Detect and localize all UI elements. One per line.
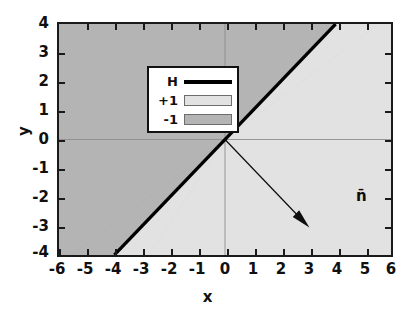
y-ticklabel-3: 3: [17, 43, 49, 61]
legend-swatch-negative: [184, 114, 232, 125]
legend: H +1 -1: [147, 66, 239, 133]
x-tick--1: [199, 249, 201, 255]
y-ticklabel--4: -4: [17, 243, 49, 261]
y-tick-1: [59, 111, 65, 113]
plot-svg: [59, 24, 391, 255]
x-tick-top-3: [311, 24, 313, 30]
y-tick-right-1: [385, 111, 391, 113]
x-tick-top--1: [199, 24, 201, 30]
x-axis-title: x: [0, 288, 415, 306]
x-tick--2: [171, 249, 173, 255]
x-tick--3: [143, 249, 145, 255]
y-ticklabel--1: -1: [17, 159, 49, 177]
legend-entry-negative: -1: [154, 110, 232, 129]
legend-swatch-positive: [184, 95, 232, 106]
x-tick--5: [87, 249, 89, 255]
legend-label-h: H: [154, 74, 178, 89]
y-tick--3: [59, 227, 65, 229]
x-tick-1: [255, 249, 257, 255]
x-tick-3: [311, 249, 313, 255]
y-tick-right--1: [385, 169, 391, 171]
legend-label-positive: +1: [154, 93, 178, 108]
x-tick--4: [115, 249, 117, 255]
x-ticklabel-6: 6: [371, 260, 411, 278]
y-tick-right-0: [385, 140, 391, 142]
y-axis-title: y: [15, 101, 33, 161]
y-tick-2: [59, 82, 65, 84]
x-tick--6: [59, 249, 61, 255]
legend-swatch-hyperplane: [184, 80, 232, 84]
y-tick-right--2: [385, 198, 391, 200]
y-tick-right-2: [385, 82, 391, 84]
y-tick-right--3: [385, 227, 391, 229]
y-ticklabel-2: 2: [17, 72, 49, 90]
x-tick-2: [283, 249, 285, 255]
plot-area: H +1 -1 n̄: [57, 22, 393, 257]
y-tick-3: [59, 53, 65, 55]
x-tick-top-0: [227, 24, 229, 30]
legend-entry-h: H: [154, 72, 232, 91]
legend-label-negative: -1: [154, 112, 178, 127]
normal-vector-label: n̄: [356, 187, 367, 205]
y-tick-0: [59, 140, 65, 142]
x-tick-0: [227, 249, 229, 255]
x-tick-top--2: [171, 24, 173, 30]
x-tick-top-1: [255, 24, 257, 30]
x-tick-top--4: [115, 24, 117, 30]
figure-canvas: H +1 -1 n̄ -6 -5 -4 -3 -2 -1 0 1 2 3 4 5…: [0, 0, 415, 323]
x-tick-top-4: [339, 24, 341, 30]
x-tick-5: [367, 249, 369, 255]
x-tick-top--5: [87, 24, 89, 30]
x-tick-top-5: [367, 24, 369, 30]
x-tick-4: [339, 249, 341, 255]
legend-entry-positive: +1: [154, 91, 232, 110]
y-tick-right-3: [385, 53, 391, 55]
y-ticklabel-4: 4: [17, 14, 49, 32]
y-ticklabel--2: -2: [17, 188, 49, 206]
y-tick--2: [59, 198, 65, 200]
x-tick-top--3: [143, 24, 145, 30]
y-tick--1: [59, 169, 65, 171]
y-ticklabel--3: -3: [17, 217, 49, 235]
x-tick-top-2: [283, 24, 285, 30]
